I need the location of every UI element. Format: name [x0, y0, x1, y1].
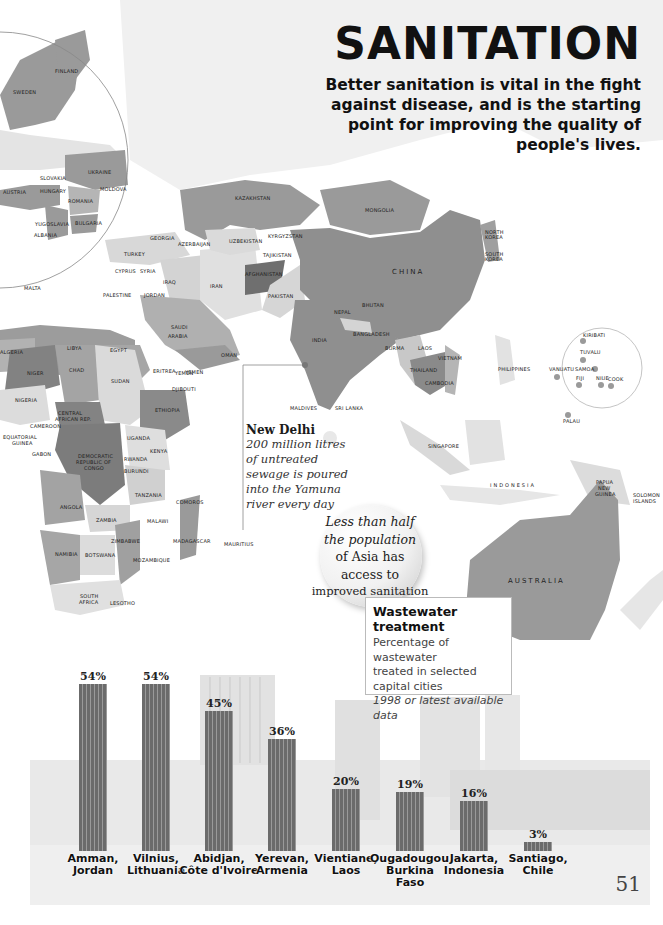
angola: [40, 470, 85, 525]
page-subtitle: Better sanitation is vital in the fight …: [281, 75, 641, 155]
svg-text:BANGLADESH: BANGLADESH: [353, 331, 390, 337]
svg-text:ROMANIA: ROMANIA: [68, 198, 94, 204]
svg-text:BOTSWANA: BOTSWANA: [85, 552, 116, 558]
bar: [268, 739, 296, 851]
bar-value-label: 45%: [199, 697, 239, 710]
svg-text:UZBEKISTAN: UZBEKISTAN: [229, 238, 262, 244]
svg-text:MADAGASCAR: MADAGASCAR: [173, 538, 211, 544]
vietnam: [445, 345, 460, 395]
svg-text:ISLANDS: ISLANDS: [633, 498, 656, 504]
svg-text:SINGAPORE: SINGAPORE: [428, 443, 459, 449]
svg-text:GUINEA: GUINEA: [12, 440, 33, 446]
svg-text:SAUDI: SAUDI: [171, 324, 188, 330]
svg-text:GEORGIA: GEORGIA: [150, 235, 175, 241]
bar: [524, 842, 552, 851]
bar-value-label: 54%: [136, 670, 176, 683]
svg-text:KOREA: KOREA: [485, 234, 503, 240]
svg-text:IRAN: IRAN: [210, 283, 223, 289]
svg-text:SRI LANKA: SRI LANKA: [335, 405, 364, 411]
svg-text:KOREA: KOREA: [485, 256, 503, 262]
svg-text:KYRGYZSTAN: KYRGYZSTAN: [268, 233, 303, 239]
legend-heading: Wastewater treatment: [373, 604, 511, 634]
svg-text:ETHIOPIA: ETHIOPIA: [155, 407, 180, 413]
svg-text:SUDAN: SUDAN: [111, 378, 130, 384]
svg-text:FIJI: FIJI: [576, 375, 584, 381]
svg-text:MAURITIUS: MAURITIUS: [224, 541, 254, 547]
svg-text:UKRAINE: UKRAINE: [88, 169, 111, 175]
svg-text:KENYA: KENYA: [150, 448, 168, 454]
svg-text:DJIBOUTI: DJIBOUTI: [172, 386, 196, 392]
bubble-line: the population: [300, 531, 440, 549]
svg-text:NIGER: NIGER: [27, 370, 44, 376]
svg-text:YEMEN: YEMEN: [174, 370, 193, 376]
chad: [55, 345, 100, 405]
svg-text:ARABIA: ARABIA: [168, 333, 188, 339]
svg-text:KIRIBATI: KIRIBATI: [583, 332, 605, 338]
svg-text:MALAWI: MALAWI: [147, 518, 168, 524]
bar: [205, 711, 233, 851]
bar-category-label: Santiago,Chile: [498, 853, 578, 877]
wastewater-bar-chart: 54%Amman,Jordan54%Vilnius,Lithuania45%Ab…: [30, 665, 650, 865]
svg-text:AUSTRIA: AUSTRIA: [3, 189, 26, 195]
svg-text:AZERBAIJAN: AZERBAIJAN: [178, 241, 210, 247]
bar-value-label: 20%: [326, 775, 366, 788]
svg-text:CHINA: CHINA: [392, 268, 424, 276]
svg-text:ERITREA: ERITREA: [153, 368, 176, 374]
bubble-line: of Asia has: [300, 548, 440, 566]
svg-text:ALGERIA: ALGERIA: [0, 349, 23, 355]
svg-text:ZIMBABWE: ZIMBABWE: [111, 538, 140, 544]
bar-value-label: 19%: [390, 778, 430, 791]
svg-text:BURMA: BURMA: [385, 345, 405, 351]
philippines: [495, 335, 515, 385]
asia-fact-text: Less than half the population of Asia ha…: [300, 513, 440, 601]
svg-text:LESOTHO: LESOTHO: [110, 600, 135, 606]
svg-text:TURKEY: TURKEY: [123, 251, 146, 257]
bar: [460, 801, 488, 851]
svg-text:NAMIBIA: NAMIBIA: [55, 551, 78, 557]
svg-text:HUNGARY: HUNGARY: [40, 188, 67, 194]
callout-body: 200 million litres of untreated sewage i…: [246, 437, 356, 512]
svg-text:PHILIPPINES: PHILIPPINES: [498, 366, 530, 372]
svg-text:EGYPT: EGYPT: [110, 347, 128, 353]
svg-text:TAJIKISTAN: TAJIKISTAN: [262, 252, 292, 258]
svg-text:NEPAL: NEPAL: [334, 309, 351, 315]
svg-text:LAOS: LAOS: [418, 345, 432, 351]
svg-text:LIBYA: LIBYA: [67, 345, 82, 351]
svg-text:INDIA: INDIA: [312, 337, 327, 343]
bar: [79, 684, 107, 851]
legend-line: treated in selected: [373, 665, 511, 680]
svg-text:PAKISTAN: PAKISTAN: [268, 293, 294, 299]
svg-text:THAILAND: THAILAND: [409, 367, 437, 373]
svg-text:IRAQ: IRAQ: [163, 279, 176, 285]
svg-text:VANUATU: VANUATU: [549, 366, 574, 372]
svg-text:MOLDOVA: MOLDOVA: [100, 186, 127, 192]
borneo: [465, 420, 505, 465]
nigeria: [0, 385, 50, 425]
svg-text:PALAU: PALAU: [563, 418, 580, 424]
svg-text:GABON: GABON: [32, 451, 51, 457]
bar-value-label: 36%: [262, 725, 302, 738]
svg-text:MALTA: MALTA: [24, 285, 41, 291]
svg-text:CAMEROON: CAMEROON: [30, 423, 61, 429]
svg-text:TUVALU: TUVALU: [579, 349, 601, 355]
iraq-syria: [160, 255, 205, 300]
svg-text:SLOVAKIA: SLOVAKIA: [40, 175, 66, 181]
bar: [396, 792, 424, 851]
svg-text:CYPRUS: CYPRUS: [115, 268, 136, 274]
svg-text:SYRIA: SYRIA: [140, 268, 156, 274]
mozambique: [115, 520, 140, 585]
svg-text:GUINEA: GUINEA: [595, 491, 616, 497]
svg-text:TANZANIA: TANZANIA: [134, 492, 162, 498]
svg-text:AFGHANISTAN: AFGHANISTAN: [245, 271, 283, 277]
svg-text:BHUTAN: BHUTAN: [362, 302, 384, 308]
svg-text:MONGOLIA: MONGOLIA: [365, 207, 394, 213]
svg-text:COMOROS: COMOROS: [176, 499, 204, 505]
svg-text:I N D O N E S I A: I N D O N E S I A: [490, 482, 534, 488]
svg-text:RWANDA: RWANDA: [124, 456, 148, 462]
bubble-line: Less than half: [300, 513, 440, 531]
svg-text:MALDIVES: MALDIVES: [290, 405, 317, 411]
bubble-line: access to: [300, 566, 440, 584]
svg-text:VIETNAM: VIETNAM: [438, 355, 462, 361]
legend-line: Percentage of wastewater: [373, 636, 511, 665]
svg-text:AUSTRALIA: AUSTRALIA: [508, 577, 565, 585]
